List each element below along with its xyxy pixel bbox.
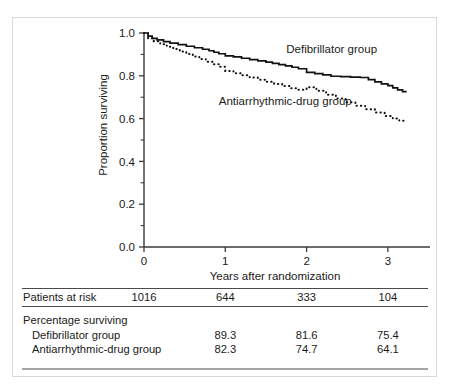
table-row-label: Patients at risk xyxy=(23,291,97,303)
table-cell: 81.6 xyxy=(296,329,318,341)
table-cell: 104 xyxy=(379,291,398,303)
table-row-label: Percentage surviving xyxy=(23,314,127,326)
y-tick-label: 0.6 xyxy=(119,113,135,125)
antiarrhythmic-series-label: Antiarrhythmic-drug group xyxy=(219,95,352,107)
kaplan-meier-chart: 0.00.20.40.60.81.00123Years after random… xyxy=(0,0,449,388)
figure-container: 0.00.20.40.60.81.00123Years after random… xyxy=(0,0,449,388)
table-cell: 74.7 xyxy=(296,343,318,355)
y-tick-label: 0.0 xyxy=(119,241,135,253)
x-tick-label: 1 xyxy=(222,255,228,267)
y-tick-label: 0.2 xyxy=(119,198,135,210)
x-axis-title: Years after randomization xyxy=(210,270,341,282)
y-tick-label: 0.4 xyxy=(119,156,136,168)
table-cell: 1016 xyxy=(132,291,157,303)
table-row-label: Defibrillator group xyxy=(32,329,120,341)
x-tick-label: 3 xyxy=(385,255,391,267)
table-cell: 82.3 xyxy=(214,343,236,355)
table-cell: 644 xyxy=(216,291,235,303)
risk-table-layer: Patients at risk1016644333104Percentage … xyxy=(22,289,428,370)
table-cell: 89.3 xyxy=(214,329,236,341)
y-tick-label: 1.0 xyxy=(119,27,135,39)
table-cell: 333 xyxy=(297,291,316,303)
x-tick-label: 0 xyxy=(141,255,147,267)
table-row-label: Antiarrhythmic-drug group xyxy=(32,343,161,355)
defibrillator-series-label: Defibrillator group xyxy=(286,43,377,55)
table-cell: 75.4 xyxy=(377,329,399,341)
y-tick-label: 0.8 xyxy=(119,70,135,82)
y-axis-title: Proportion surviving xyxy=(97,74,109,176)
axis-layer: 0.00.20.40.60.81.00123Years after random… xyxy=(97,27,430,282)
x-tick-label: 2 xyxy=(303,255,309,267)
table-cell: 64.1 xyxy=(377,343,399,355)
